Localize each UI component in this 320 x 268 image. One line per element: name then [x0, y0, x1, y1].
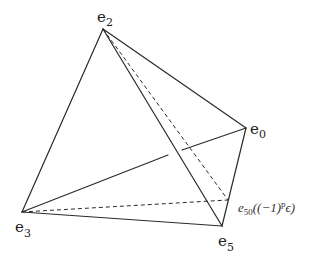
edge-e2-e0	[103, 29, 246, 128]
dashed-edge-e3-e50	[22, 200, 228, 212]
label-e0: e0	[250, 120, 266, 141]
edge-e3-e0-back-segment	[182, 128, 246, 150]
label-e5: e5	[218, 232, 234, 254]
edge-e3-e5	[22, 212, 222, 226]
tetrahedron-diagram: e2 e0 e3 e5 e50((−1)pϵ)	[0, 0, 320, 268]
label-e50: e50((−1)pϵ)	[238, 199, 295, 217]
edge-e2-e5	[103, 29, 222, 226]
dashed-edge-e2-e50	[103, 29, 228, 200]
label-e3: e3	[15, 218, 31, 240]
label-e2: e2	[97, 8, 113, 29]
